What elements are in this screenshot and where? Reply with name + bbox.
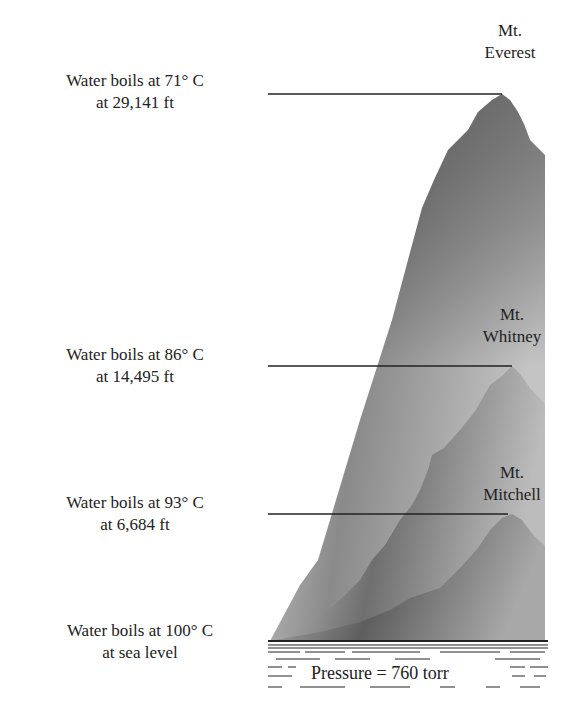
boiling-temp-text: Water boils at 100° C [20, 620, 260, 642]
peak-name-line: Mt. [472, 462, 552, 484]
peak-name-line: Whitney [472, 326, 552, 348]
peak-name-line: Mt. [470, 20, 550, 42]
whitney-name: Mt. Whitney [472, 304, 552, 348]
everest-name: Mt. Everest [470, 20, 550, 64]
boiling-temp-text: Water boils at 71° C [20, 70, 250, 92]
peak-name-line: Mitchell [472, 484, 552, 506]
boiling-temp-text: Water boils at 86° C [20, 344, 250, 366]
sea-level-boiling-label: Water boils at 100° C at sea level [20, 620, 260, 664]
mitchell-name: Mt. Mitchell [472, 462, 552, 506]
mitchell-boiling-label: Water boils at 93° C at 6,684 ft [20, 492, 250, 536]
everest-boiling-label: Water boils at 71° C at 29,141 ft [20, 70, 250, 114]
altitude-text: at 29,141 ft [20, 92, 250, 114]
altitude-text: at 6,684 ft [20, 514, 250, 536]
altitude-text: at 14,495 ft [20, 366, 250, 388]
whitney-boiling-label: Water boils at 86° C at 14,495 ft [20, 344, 250, 388]
boiling-temp-text: Water boils at 93° C [20, 492, 250, 514]
altitude-text: at sea level [20, 642, 260, 664]
pressure-label: Pressure = 760 torr [308, 663, 452, 684]
peak-name-line: Everest [470, 42, 550, 64]
peak-name-line: Mt. [472, 304, 552, 326]
